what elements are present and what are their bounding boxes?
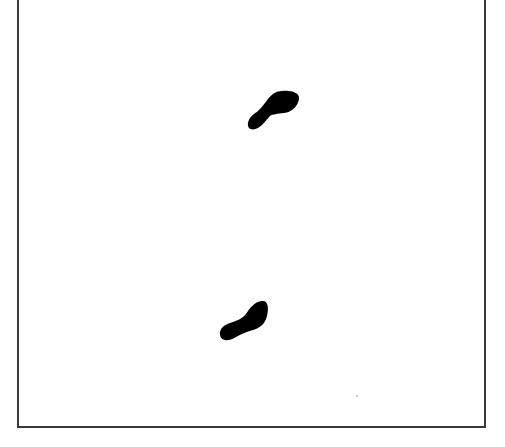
footprints-illustration bbox=[0, 0, 505, 447]
scan-speck bbox=[356, 395, 358, 397]
footprint-upper-icon bbox=[248, 91, 299, 130]
footprint-lower-icon bbox=[220, 301, 268, 340]
